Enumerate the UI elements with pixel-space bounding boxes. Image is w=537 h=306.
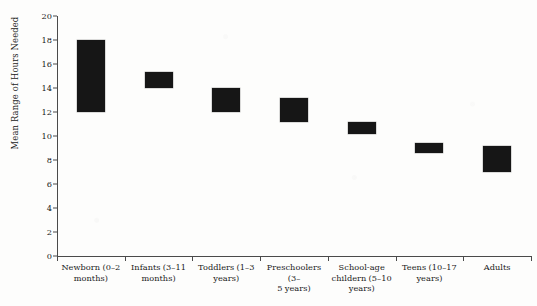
x-category-label-line: School-age xyxy=(328,262,396,273)
range-bar[interactable] xyxy=(212,88,240,112)
x-category-label-line: months) xyxy=(125,273,193,284)
x-category-label: Infants (3–11months) xyxy=(125,262,193,283)
y-tick-label: 4 xyxy=(47,203,57,213)
x-category-label-line: 5 years) xyxy=(260,283,328,294)
y-tick-label: 16 xyxy=(42,59,57,69)
y-tick-label: 18 xyxy=(42,35,57,45)
x-category-label: Newborn (0–2months) xyxy=(57,262,125,283)
y-axis-line xyxy=(57,16,58,257)
y-tick-label: 8 xyxy=(47,155,57,165)
y-tick-label: 6 xyxy=(47,179,57,189)
range-bar[interactable] xyxy=(280,98,308,122)
x-tick-mark xyxy=(328,256,329,261)
x-category-label-line: months) xyxy=(57,273,125,284)
x-category-label-line: Teens (10–17 xyxy=(396,262,464,273)
x-category-label: Teens (10–17years) xyxy=(396,262,464,283)
x-category-label-line: years) xyxy=(328,283,396,294)
x-tick-mark xyxy=(463,256,464,261)
x-category-label-line: Toddlers (1–3 xyxy=(192,262,260,273)
x-category-label-line: Infants (3–11 xyxy=(125,262,193,273)
x-category-label-line: Newborn (0–2 xyxy=(57,262,125,273)
x-tick-mark xyxy=(192,256,193,261)
x-category-label-line: Preschoolers (3– xyxy=(260,262,328,283)
x-tick-mark xyxy=(125,256,126,261)
y-tick-label: 2 xyxy=(47,227,57,237)
y-tick-label: 12 xyxy=(42,107,57,117)
range-bar[interactable] xyxy=(77,40,105,112)
y-axis-title: Mean Range of Hours Needed xyxy=(10,0,20,173)
x-axis-line xyxy=(57,256,531,257)
x-tick-mark xyxy=(260,256,261,261)
y-tick-label: 0 xyxy=(47,251,57,261)
x-category-label: Adults xyxy=(463,262,531,273)
y-tick-label: 14 xyxy=(42,83,57,93)
range-bar[interactable] xyxy=(348,122,376,134)
y-tick-label: 10 xyxy=(42,131,57,141)
range-bar[interactable] xyxy=(483,146,511,172)
x-category-label-line: Adults xyxy=(463,262,531,273)
x-category-label-line: years) xyxy=(396,273,464,284)
x-tick-mark xyxy=(396,256,397,261)
x-tick-mark xyxy=(57,256,58,261)
x-category-label: School-agechildern (5–10years) xyxy=(328,262,396,294)
x-category-label-line: years) xyxy=(192,273,260,284)
x-category-label: Preschoolers (3–5 years) xyxy=(260,262,328,294)
x-category-label-line: childern (5–10 xyxy=(328,273,396,284)
x-tick-mark xyxy=(531,256,532,261)
range-bar[interactable] xyxy=(145,72,173,88)
x-category-label: Toddlers (1–3years) xyxy=(192,262,260,283)
y-tick-label: 20 xyxy=(42,11,57,21)
range-bar[interactable] xyxy=(415,143,443,153)
chart-figure: Mean Range of Hours Needed 0246810121416… xyxy=(0,0,537,306)
